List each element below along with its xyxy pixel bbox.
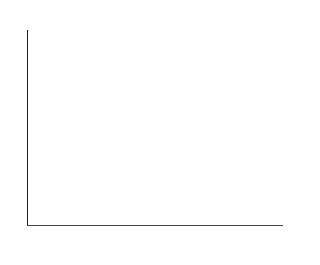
y-axis	[27, 30, 28, 226]
x-axis	[27, 225, 283, 226]
